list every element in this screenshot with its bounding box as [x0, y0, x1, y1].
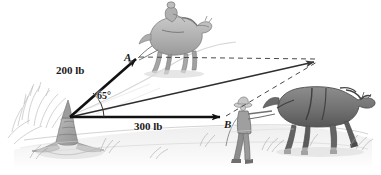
force-label-300lb: 300 lb [134, 121, 162, 132]
point-label-a: A [124, 52, 131, 63]
dashed-side-from-a [139, 57, 316, 59]
force-parallelogram-figure: 200 lb 300 lb 65° A B [0, 0, 381, 175]
angle-label: 65° [97, 91, 111, 101]
vector-diagram-overlay [0, 0, 381, 175]
force-label-200lb: 200 lb [56, 65, 84, 76]
point-label-b: B [224, 119, 231, 130]
dashed-side-from-b [226, 62, 317, 116]
